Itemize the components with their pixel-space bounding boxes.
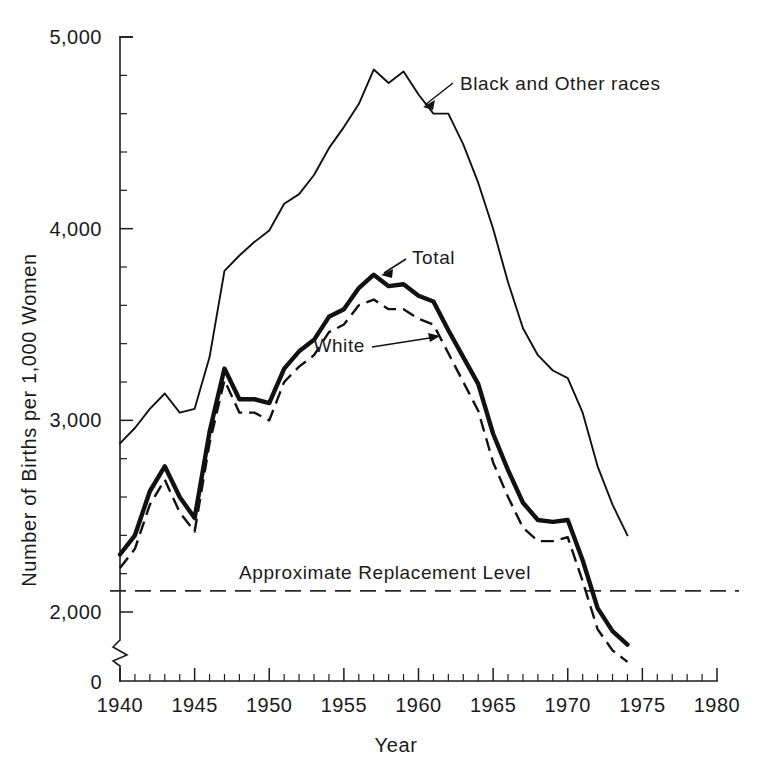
x-tick-label: 1980 bbox=[694, 694, 741, 716]
chart-svg: Number of Births per 1,000 Women Year 2,… bbox=[0, 0, 761, 764]
y-axis-title: Number of Births per 1,000 Women bbox=[18, 253, 40, 586]
annotation-leader-black-and-other-races bbox=[425, 83, 453, 105]
axes-group bbox=[113, 37, 717, 681]
annotation-label-total: Total bbox=[412, 247, 455, 268]
y-axis-break-icon bbox=[113, 640, 127, 666]
x-tick-label: 1940 bbox=[97, 694, 144, 716]
x-tick-label: 1965 bbox=[470, 694, 517, 716]
series-black-and-other-races bbox=[120, 70, 627, 536]
y-axis-tick-labels: 2,0003,0004,0005,0000 bbox=[49, 26, 102, 693]
x-axis-tick-labels: 194019451950195519601965197019751980 bbox=[97, 694, 741, 716]
x-tick-label: 1960 bbox=[395, 694, 442, 716]
annotation-label-black-and-other-races: Black and Other races bbox=[460, 73, 661, 94]
replacement-level-label: Approximate Replacement Level bbox=[239, 562, 531, 583]
x-tick-label: 1945 bbox=[171, 694, 218, 716]
x-tick-label: 1975 bbox=[619, 694, 666, 716]
annotation-total: Total bbox=[381, 247, 455, 278]
y-tick-label: 4,000 bbox=[49, 218, 102, 240]
x-tick-label: 1970 bbox=[545, 694, 592, 716]
x-axis-title: Year bbox=[375, 734, 418, 756]
x-axis-ticks bbox=[120, 668, 717, 681]
y-axis-ticks bbox=[120, 37, 133, 612]
replacement-level-group: Approximate Replacement Level bbox=[110, 562, 739, 591]
x-tick-label: 1955 bbox=[321, 694, 368, 716]
series-total bbox=[120, 275, 627, 645]
annotation-label-white: White bbox=[313, 335, 365, 356]
series-white bbox=[120, 300, 627, 662]
annotation-white: White bbox=[313, 333, 440, 356]
y-tick-label: 2,000 bbox=[49, 601, 102, 623]
annotation-leader-white bbox=[372, 337, 436, 347]
y-origin-label: 0 bbox=[90, 671, 102, 693]
y-tick-label: 3,000 bbox=[49, 409, 102, 431]
chart-figure: Number of Births per 1,000 Women Year 2,… bbox=[0, 0, 761, 764]
x-tick-label: 1950 bbox=[246, 694, 293, 716]
annotation-leader-total bbox=[384, 259, 406, 273]
y-tick-label: 5,000 bbox=[49, 26, 102, 48]
annotation-black-other: Black and Other races bbox=[423, 73, 661, 110]
